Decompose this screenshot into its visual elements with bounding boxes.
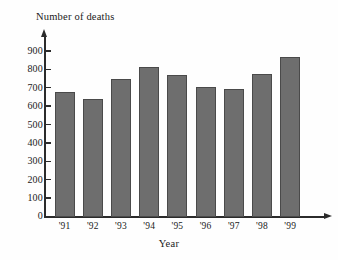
- y-axis-tick-label: 200: [9, 175, 43, 185]
- bar-92: [83, 99, 103, 217]
- bar-chart-figure: Number of deaths 90080070060050040030020…: [0, 0, 338, 260]
- bar-95: [167, 75, 187, 217]
- bar-93: [111, 79, 131, 217]
- bar-99: [280, 57, 300, 217]
- bar-98: [252, 74, 272, 217]
- x-axis-tick-label: '99: [273, 221, 307, 232]
- plot-area: [46, 36, 326, 217]
- y-axis-tick-label: 900: [9, 46, 43, 56]
- y-axis-tick-label: 0: [9, 211, 43, 221]
- bar-97: [224, 89, 244, 217]
- y-axis-tick-label: 100: [9, 193, 43, 203]
- bar-94: [139, 67, 159, 217]
- y-axis-tick-label: 700: [9, 83, 43, 93]
- y-axis-tick-label: 500: [9, 120, 43, 130]
- bar-91: [55, 92, 75, 217]
- y-axis-tick-label: 400: [9, 138, 43, 148]
- y-axis-tick-label: 800: [9, 64, 43, 74]
- y-axis-tick-label: 600: [9, 101, 43, 111]
- y-axis-title: Number of deaths: [36, 11, 114, 22]
- bar-96: [196, 87, 216, 217]
- x-axis-title: Year: [0, 238, 338, 249]
- y-axis-tick-label: 300: [9, 156, 43, 166]
